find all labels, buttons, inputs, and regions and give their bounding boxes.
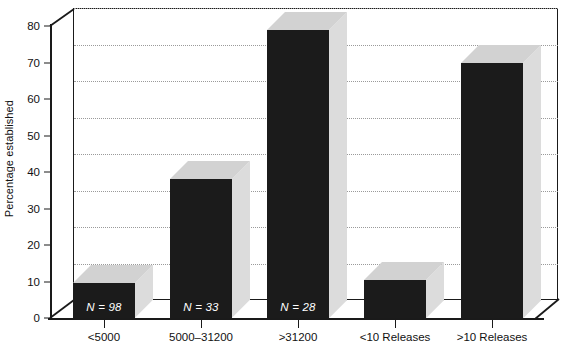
- y-axis-tick-label: 10: [16, 276, 40, 288]
- x-axis-tick-mark: [201, 320, 202, 328]
- x-axis-tick-mark: [395, 320, 396, 328]
- floor-front-line: [48, 318, 544, 320]
- y-axis-tick-mark: [44, 245, 50, 246]
- y-axis-tick-mark: [44, 99, 50, 100]
- bar-n-label: N = 28: [267, 301, 329, 313]
- plot-front-left-edge: [73, 8, 74, 300]
- x-axis-tick-label: <5000: [88, 331, 120, 343]
- y-axis-tick-label: 70: [16, 57, 40, 69]
- y-axis-tick-labels: 01020304050607080: [14, 0, 40, 352]
- y-axis-tick-mark: [44, 26, 50, 27]
- x-axis-tick-label: 5000–31200: [169, 331, 233, 343]
- bar-depth-side-face: [329, 12, 347, 318]
- y-axis-tick-label: 40: [16, 166, 40, 178]
- bar-front-face[interactable]: N = 33: [170, 179, 232, 318]
- y-axis-tick-mark: [44, 172, 50, 173]
- y-axis-tick-label: 80: [16, 20, 40, 32]
- bar-chart-figure: Percentage established N = 98N = 33N = 2…: [0, 0, 562, 352]
- y-axis-tick-label: 50: [16, 130, 40, 142]
- bar-depth-side-face: [523, 45, 541, 319]
- y-axis-tick-mark: [44, 318, 50, 319]
- x-axis-tick-mark: [104, 320, 105, 328]
- y-axis-tick-marks: [44, 0, 52, 352]
- bar-front-face[interactable]: N = 28: [267, 30, 329, 318]
- plot-area: N = 98N = 33N = 28: [0, 0, 562, 352]
- gridline: [74, 8, 558, 9]
- x-axis-tick-mark: [298, 320, 299, 328]
- depth-diagonal-top: [50, 8, 74, 25]
- y-axis-tick-label: 20: [16, 239, 40, 251]
- depth-diagonal-bottom: [50, 300, 74, 319]
- bar-front-face[interactable]: [364, 280, 426, 318]
- bar-depth-side-face: [232, 161, 250, 318]
- bar-front-face[interactable]: [461, 63, 523, 319]
- y-axis-tick-mark: [44, 208, 50, 209]
- x-axis-tick-mark: [492, 320, 493, 328]
- y-axis-tick-label: 30: [16, 203, 40, 215]
- x-axis-tick-label: <10 Releases: [360, 331, 431, 343]
- y-axis-tick-label: 60: [16, 93, 40, 105]
- bar-n-label: N = 98: [73, 301, 135, 313]
- y-axis-tick-mark: [44, 281, 50, 282]
- y-axis-tick-mark: [44, 62, 50, 63]
- y-axis-tick-label: 0: [16, 312, 40, 324]
- bar-front-face[interactable]: N = 98: [73, 283, 135, 318]
- x-axis-tick-label: >10 Releases: [457, 331, 528, 343]
- y-axis-tick-mark: [44, 135, 50, 136]
- x-axis-tick-label: >31200: [279, 331, 318, 343]
- bar-n-label: N = 33: [170, 301, 232, 313]
